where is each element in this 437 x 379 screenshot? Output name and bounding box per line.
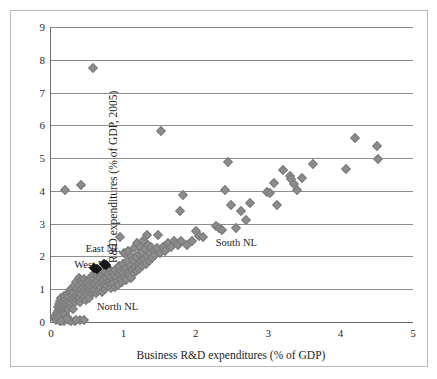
data-point (372, 141, 382, 151)
annotation-east-nl: East NL (86, 244, 121, 255)
scatter-chart-figure: Total R&D expenditures (% of GDP, 2005) … (0, 0, 437, 379)
data-point (61, 185, 71, 195)
data-point (175, 206, 185, 216)
y-tick-label-3: 3 (40, 218, 46, 229)
data-point (179, 191, 189, 201)
data-point (198, 232, 208, 242)
y-tick-label-9: 9 (40, 22, 46, 33)
y-tick-label-8: 8 (40, 54, 46, 65)
x-tick-label-3: 3 (265, 328, 271, 339)
y-tick-label-6: 6 (40, 120, 46, 131)
data-point (308, 159, 318, 169)
data-point (226, 200, 236, 210)
data-point (220, 185, 230, 195)
y-tick-label-0: 0 (40, 317, 46, 328)
y-tick-label-5: 5 (40, 153, 46, 164)
data-point (88, 63, 98, 73)
gridline-y-7 (51, 93, 413, 94)
gridline-y-2 (51, 256, 413, 257)
data-point (236, 206, 246, 216)
y-tick-label-7: 7 (40, 87, 46, 98)
data-point (115, 232, 125, 242)
gridline-y-3 (51, 224, 413, 225)
gridline-y-9 (51, 27, 413, 28)
gridline-y-8 (51, 60, 413, 61)
x-tick-label-1: 1 (121, 328, 127, 339)
annotation-west-nl: West NL (74, 260, 111, 271)
annotation-south-nl: South NL (216, 237, 257, 248)
data-point (156, 126, 166, 136)
data-point (373, 154, 383, 164)
data-point (153, 230, 163, 240)
plot-area: 0123456789 012345 East NLWest NLNorth NL… (50, 27, 413, 323)
y-tick-label-2: 2 (40, 251, 46, 262)
x-axis-label: Business R&D expenditures (% of GDP) (137, 349, 326, 361)
y-tick-label-4: 4 (40, 185, 46, 196)
data-point (269, 178, 279, 188)
x-tick-label-2: 2 (193, 328, 199, 339)
data-point (297, 173, 307, 183)
gridline-y-5 (51, 158, 413, 159)
data-point (245, 198, 255, 208)
chart-page: Total R&D expenditures (% of GDP, 2005) … (0, 0, 437, 379)
data-point (272, 200, 282, 210)
gridline-y-4 (51, 191, 413, 192)
annotation-north-nl: North NL (97, 301, 138, 312)
gridline-y-6 (51, 125, 413, 126)
x-tick-label-5: 5 (410, 328, 416, 339)
data-point (341, 164, 351, 174)
data-point (350, 133, 360, 143)
y-tick-label-1: 1 (40, 284, 46, 295)
x-tick-label-0: 0 (48, 328, 54, 339)
data-point (76, 180, 86, 190)
x-tick-label-4: 4 (338, 328, 344, 339)
